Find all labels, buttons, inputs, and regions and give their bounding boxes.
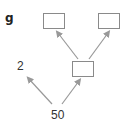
arrow-mid-to-topleft <box>58 33 78 59</box>
answer-box-top-right[interactable] <box>98 13 120 29</box>
arrow-mid-to-topright <box>89 33 108 59</box>
answer-box-middle[interactable] <box>72 61 94 77</box>
arrow-root-to-left <box>29 79 52 104</box>
root-number: 50 <box>51 109 64 121</box>
arrow-root-to-right <box>62 81 79 104</box>
answer-box-top-left[interactable] <box>43 13 65 29</box>
factor-left: 2 <box>17 60 24 72</box>
